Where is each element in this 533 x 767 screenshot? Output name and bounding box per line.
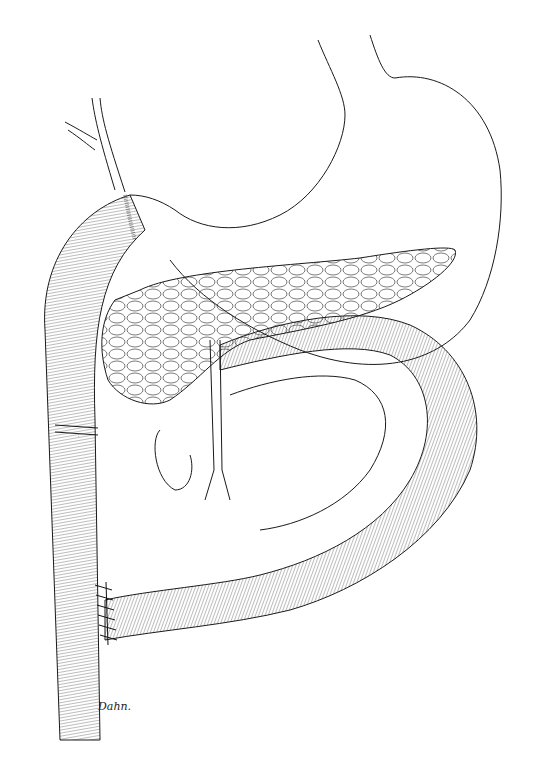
- artist-signature: Dahn.: [98, 700, 131, 713]
- bile-duct: [65, 98, 125, 192]
- illustration-canvas: Dahn.: [0, 0, 533, 767]
- anatomical-drawing: [0, 0, 533, 767]
- duodenum: [45, 195, 145, 740]
